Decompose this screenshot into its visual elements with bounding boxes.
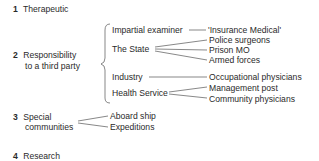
- node-the-state: The State: [112, 44, 149, 54]
- category-label: Therapeutic: [23, 4, 68, 14]
- category-label-line2: to a third party: [25, 61, 80, 71]
- leaf-armed-forces: Armed forces: [209, 55, 260, 65]
- leaf-police-surgeons: Police surgeons: [209, 35, 270, 45]
- category-number: 3: [13, 112, 18, 122]
- category-therapeutic: 1 Therapeutic: [13, 4, 68, 14]
- category-number: 4: [13, 151, 18, 161]
- node-industry: Industry: [112, 72, 143, 82]
- node-health-service: Health Service: [112, 88, 168, 98]
- category-number: 2: [13, 50, 18, 60]
- node-impartial-examiner: Impartial examiner: [112, 25, 183, 35]
- leaf-management-post: Management post: [209, 83, 278, 93]
- category-label-line1: Responsibility: [23, 50, 76, 60]
- brace: [101, 24, 110, 103]
- leaf-insurance-medical: 'Insurance Medical': [208, 25, 281, 35]
- category-third-party: 2 Responsibility: [13, 50, 76, 60]
- leaf-prison-mo: Prison MO: [209, 45, 250, 55]
- category-research: 4 Research: [13, 151, 60, 161]
- leaf-occupational-physicians: Occupational physicians: [209, 72, 302, 82]
- category-label-line1: Special: [23, 112, 51, 122]
- category-label: Research: [23, 151, 60, 161]
- category-number: 1: [13, 4, 18, 14]
- leaf-aboard-ship: Aboard ship: [110, 111, 156, 121]
- leaf-community-physicians: Community physicians: [209, 94, 295, 104]
- category-label-line2: communities: [25, 122, 73, 132]
- leaf-expeditions: Expeditions: [110, 122, 154, 132]
- category-special-communities: 3 Special: [13, 112, 51, 122]
